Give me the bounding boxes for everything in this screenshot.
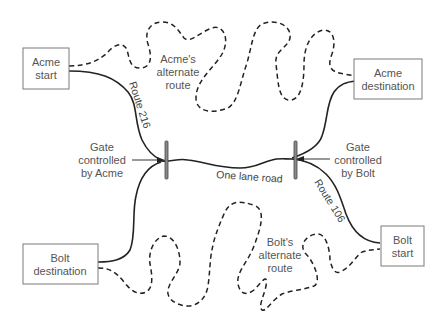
gate-bolt-bar [294, 141, 297, 179]
acme-alternate-route-label: Acme's alternate route [157, 53, 200, 91]
acme-start-label-line1: Acme [32, 56, 60, 68]
svg-text:controlled: controlled [78, 154, 126, 166]
bolt-start-label-line2: start [392, 247, 413, 259]
bolt-start-node: Bolt start [381, 226, 424, 266]
svg-text:route: route [267, 262, 292, 274]
svg-text:alternate: alternate [259, 249, 302, 261]
acme-destination-node: Acme destination [354, 59, 422, 99]
acme-start-label-line2: start [35, 69, 56, 81]
svg-text:Bolt's: Bolt's [267, 236, 294, 248]
route-106-label: Route 106 [312, 177, 348, 225]
svg-text:by Bolt: by Bolt [341, 167, 375, 179]
acme-alternate-route-path [69, 22, 356, 111]
svg-text:Acme's: Acme's [160, 53, 196, 65]
svg-text:controlled: controlled [334, 154, 382, 166]
svg-text:by Acme: by Acme [81, 167, 123, 179]
gate-bolt-label: Gate controlled by Bolt [334, 141, 382, 179]
svg-text:Gate: Gate [90, 141, 114, 153]
one-lane-road-path [161, 159, 292, 168]
gate-acme-label: Gate controlled by Acme [78, 141, 126, 179]
acme-start-node: Acme start [23, 48, 69, 89]
one-lane-road-label: One lane road [216, 168, 283, 185]
bolt-start-label-line1: Bolt [393, 234, 412, 246]
gate-acme-bar [165, 141, 168, 179]
svg-text:alternate: alternate [157, 66, 200, 78]
route-216-label: Route 216 [127, 80, 153, 130]
bolt-destination-node: Bolt destination [23, 244, 98, 284]
svg-text:Gate: Gate [346, 141, 370, 153]
bolt-destination-label-line1: Bolt [51, 252, 70, 264]
acme-destination-label-line2: destination [361, 80, 414, 92]
svg-text:route: route [165, 79, 190, 91]
acme-destination-label-line1: Acme [374, 67, 402, 79]
chicken-game-road-diagram: Acme start Acme destination Bolt destina… [0, 0, 448, 324]
bolt-destination-label-line2: destination [33, 265, 86, 277]
bolt-alternate-route-label: Bolt's alternate route [259, 236, 302, 274]
